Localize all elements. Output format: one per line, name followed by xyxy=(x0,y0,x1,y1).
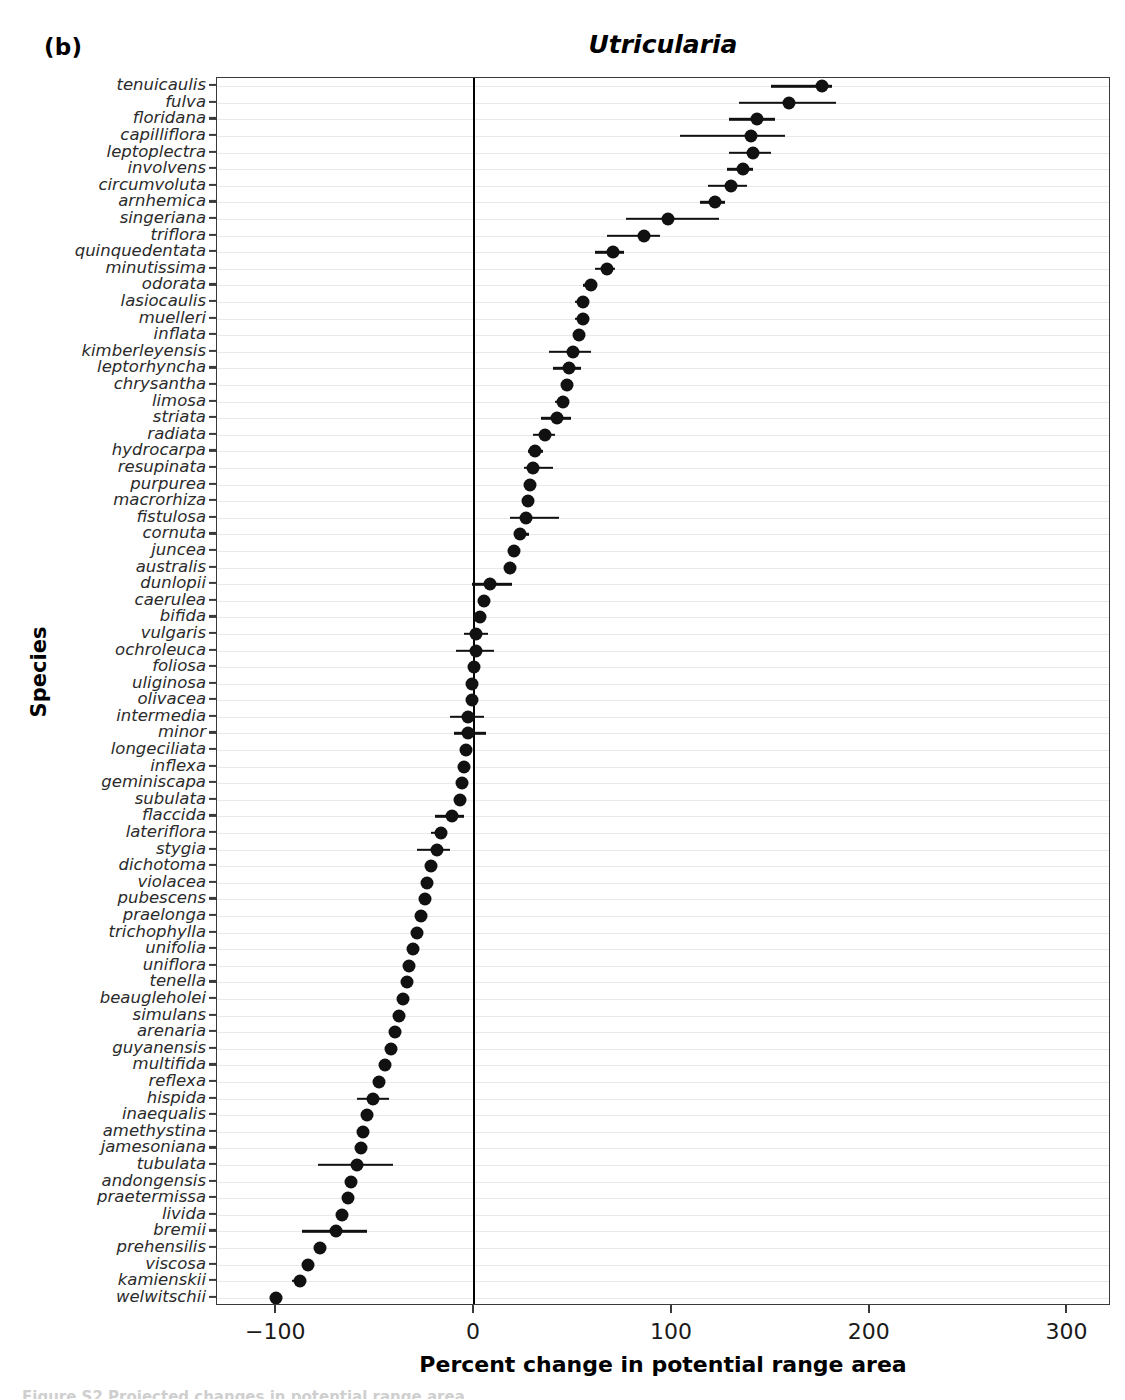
y-tick-mark xyxy=(209,466,216,468)
row-gridline xyxy=(217,335,1109,336)
row-gridline xyxy=(217,1049,1109,1050)
data-point xyxy=(466,694,479,707)
y-tick-mark xyxy=(209,798,216,800)
data-point xyxy=(294,1275,307,1288)
row-gridline xyxy=(217,1032,1109,1033)
row-gridline xyxy=(217,236,1109,237)
y-tick-mark xyxy=(209,897,216,899)
data-point xyxy=(424,860,437,873)
data-point xyxy=(606,246,619,259)
row-gridline xyxy=(217,319,1109,320)
data-point xyxy=(418,893,431,906)
row-gridline xyxy=(217,933,1109,934)
row-gridline xyxy=(217,1115,1109,1116)
row-gridline xyxy=(217,1148,1109,1149)
data-point xyxy=(557,395,570,408)
data-point xyxy=(567,345,580,358)
y-tick-mark xyxy=(209,1296,216,1298)
y-tick-mark xyxy=(209,167,216,169)
y-tick-mark xyxy=(209,1096,216,1098)
data-point xyxy=(458,760,471,773)
row-gridline xyxy=(217,1215,1109,1216)
y-tick-mark xyxy=(209,1014,216,1016)
y-tick-mark xyxy=(209,814,216,816)
data-point xyxy=(750,113,763,126)
row-gridline xyxy=(217,1082,1109,1083)
y-tick-mark xyxy=(209,416,216,418)
row-gridline xyxy=(217,435,1109,436)
row-gridline xyxy=(217,368,1109,369)
data-point xyxy=(470,627,483,640)
y-tick-mark xyxy=(209,433,216,435)
row-gridline xyxy=(217,999,1109,1000)
x-tick-label: 200 xyxy=(848,1319,890,1344)
data-point xyxy=(478,594,491,607)
row-gridline xyxy=(217,1099,1109,1100)
row-gridline xyxy=(217,153,1109,154)
y-tick-mark xyxy=(209,549,216,551)
row-gridline xyxy=(217,518,1109,519)
row-gridline xyxy=(217,700,1109,701)
y-tick-mark xyxy=(209,134,216,136)
row-gridline xyxy=(217,750,1109,751)
y-axis-title: Species xyxy=(27,592,51,752)
y-tick-mark xyxy=(209,632,216,634)
data-point xyxy=(551,412,564,425)
y-tick-mark xyxy=(209,250,216,252)
row-gridline xyxy=(217,634,1109,635)
y-tick-mark xyxy=(209,748,216,750)
row-gridline xyxy=(217,966,1109,967)
y-tick-mark xyxy=(209,151,216,153)
y-tick-mark xyxy=(209,1063,216,1065)
data-point xyxy=(572,329,585,342)
data-point xyxy=(466,677,479,690)
data-point xyxy=(400,976,413,989)
row-gridline xyxy=(217,783,1109,784)
y-tick-mark xyxy=(209,665,216,667)
row-gridline xyxy=(217,584,1109,585)
data-point xyxy=(563,362,576,375)
y-tick-mark xyxy=(209,333,216,335)
data-point xyxy=(446,810,459,823)
data-point xyxy=(782,96,795,109)
data-point xyxy=(816,80,829,93)
y-tick-mark xyxy=(209,615,216,617)
zero-reference-line xyxy=(473,78,475,1304)
y-tick-mark xyxy=(209,1279,216,1281)
data-point xyxy=(584,279,597,292)
data-point xyxy=(456,777,469,790)
data-point xyxy=(519,511,532,524)
row-gridline xyxy=(217,103,1109,104)
data-point xyxy=(379,1059,392,1072)
y-tick-mark xyxy=(209,1246,216,1248)
y-tick-mark xyxy=(209,283,216,285)
data-point xyxy=(462,710,475,723)
x-tick-mark xyxy=(472,1305,474,1313)
y-tick-mark xyxy=(209,184,216,186)
row-gridline xyxy=(217,667,1109,668)
figure-caption-remnant: Figure S2 Projected changes in potential… xyxy=(22,1388,465,1399)
data-point xyxy=(725,179,738,192)
y-tick-mark xyxy=(209,1262,216,1264)
data-point xyxy=(454,793,467,806)
x-axis-title: Percent change in potential range area xyxy=(216,1352,1110,1377)
data-point xyxy=(355,1142,368,1155)
x-tick-label: −100 xyxy=(245,1319,305,1344)
y-tick-mark xyxy=(209,101,216,103)
y-tick-mark xyxy=(209,516,216,518)
row-gridline xyxy=(217,568,1109,569)
data-point xyxy=(523,478,536,491)
row-gridline xyxy=(217,451,1109,452)
y-tick-mark xyxy=(209,731,216,733)
row-gridline xyxy=(217,136,1109,137)
data-point xyxy=(529,445,542,458)
row-gridline xyxy=(217,1248,1109,1249)
y-tick-mark xyxy=(209,1113,216,1115)
data-point xyxy=(462,727,475,740)
error-bar xyxy=(680,135,785,137)
data-point xyxy=(361,1109,374,1122)
data-point xyxy=(301,1258,314,1271)
data-point xyxy=(410,926,423,939)
y-tick-mark xyxy=(209,1130,216,1132)
row-gridline xyxy=(217,982,1109,983)
